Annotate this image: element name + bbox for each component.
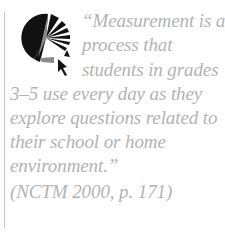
- quote-citation: (NCTM 2000, p. 171): [10, 180, 172, 204]
- quote-line: explore questions related to: [10, 106, 217, 130]
- quote-line: their school or home: [10, 130, 166, 154]
- quote-line: 3–5 use every day as they: [10, 82, 202, 106]
- quote-line: students in grades: [82, 58, 218, 82]
- measurement-logo-icon: [20, 12, 78, 82]
- quote-line: environment.”: [10, 154, 118, 178]
- sidebar-quote: “Measurement is a process that students …: [0, 0, 225, 232]
- quote-line: process that: [82, 33, 172, 57]
- quote-line: “Measurement is a: [82, 9, 225, 33]
- left-rule-divider: [4, 12, 5, 228]
